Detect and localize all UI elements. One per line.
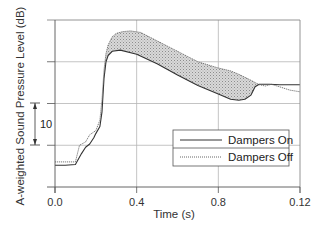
arrow-down-icon <box>33 139 37 145</box>
y-axis-label: A-weighted Sound Pressure Level (dB) <box>14 6 26 205</box>
scale-annotation: 10 <box>30 103 52 145</box>
x-tick-label: 0.12 <box>289 196 310 208</box>
x-axis-label: Time (s) <box>153 208 195 220</box>
arrow-up-icon <box>33 103 37 109</box>
scale-annotation-label: 10 <box>40 118 52 130</box>
legend: Dampers On Dampers Off <box>173 130 294 166</box>
x-ticks: 0.00.40.80.12 <box>47 187 310 208</box>
x-tick-label: 0.8 <box>211 196 226 208</box>
shaded-region <box>104 31 259 100</box>
x-tick-label: 0.0 <box>47 196 62 208</box>
chart: 0.00.40.80.12 A-weighted Sound Pressure … <box>0 0 320 236</box>
x-tick-label: 0.4 <box>129 196 144 208</box>
legend-label-dampers-on: Dampers On <box>228 134 293 146</box>
axes <box>47 20 300 193</box>
legend-label-dampers-off: Dampers Off <box>228 151 294 163</box>
